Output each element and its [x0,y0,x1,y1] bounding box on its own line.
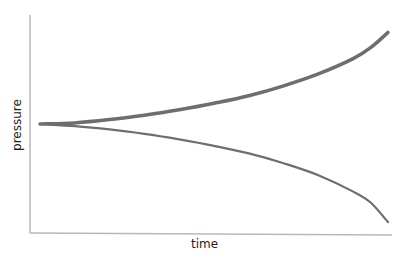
series-lower-line [40,124,388,222]
x-axis-label: time [0,237,409,251]
series-upper-line [40,32,388,124]
line-chart [0,0,409,265]
y-axis-label: pressure [10,75,24,175]
x-axis [30,233,392,235]
